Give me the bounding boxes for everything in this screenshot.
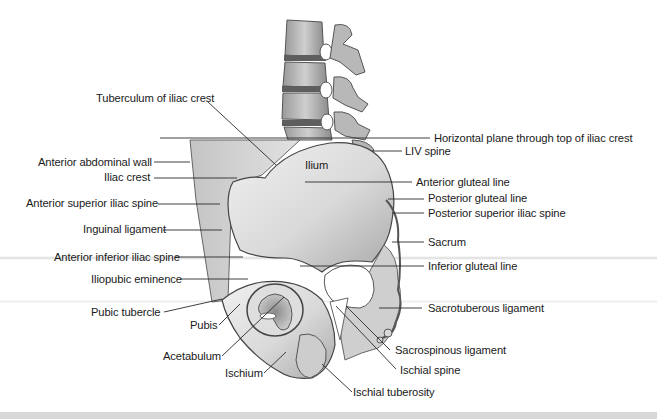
- label-ilium: Ilium: [305, 159, 328, 172]
- label-ischial-tuberosity: Ischial tuberosity: [353, 386, 435, 399]
- label-pubic-tubercle: Pubic tubercle: [91, 306, 161, 319]
- label-pubis: Pubis: [190, 319, 218, 332]
- label-ischium: Ischium: [225, 367, 263, 380]
- pelvis-diagram: Tuberculum of iliac crest Anterior abdom…: [0, 0, 657, 419]
- label-inguinal-ligament: Inguinal ligament: [83, 223, 166, 236]
- label-acetabulum: Acetabulum: [163, 350, 221, 363]
- label-anterior-inferior-iliac-spine: Anterior inferior iliac spine: [54, 251, 180, 264]
- label-sacrum: Sacrum: [428, 236, 466, 249]
- label-sacrotuberous-ligament: Sacrotuberous ligament: [428, 302, 544, 315]
- label-anterior-gluteal-line: Anterior gluteal line: [416, 176, 510, 189]
- label-posterior-superior-iliac-spine: Posterior superior iliac spine: [428, 207, 566, 220]
- label-sacrospinous-ligament: Sacrospinous ligament: [395, 344, 506, 357]
- label-iliopubic-eminence: Iliopubic eminence: [91, 273, 182, 286]
- label-tuberculum-of-iliac-crest: Tuberculum of iliac crest: [96, 92, 214, 105]
- acetabulum-shape: [247, 284, 303, 336]
- label-posterior-gluteal-line: Posterior gluteal line: [428, 192, 527, 205]
- label-ischial-spine: Ischial spine: [400, 364, 460, 377]
- label-anterior-superior-iliac-spine: Anterior superior iliac spine: [26, 197, 158, 210]
- label-horizontal-plane: Horizontal plane through top of iliac cr…: [434, 132, 632, 145]
- label-inferior-gluteal-line: Inferior gluteal line: [428, 260, 517, 273]
- label-iliac-crest: Iliac crest: [104, 171, 150, 184]
- label-anterior-abdominal-wall: Anterior abdominal wall: [38, 156, 152, 169]
- lumbar-vertebrae: [282, 20, 374, 156]
- label-liv-spine: LIV spine: [405, 145, 451, 158]
